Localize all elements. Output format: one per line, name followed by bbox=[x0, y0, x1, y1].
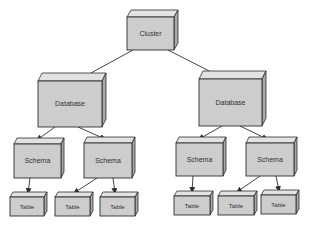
node-schema3: Schema bbox=[176, 137, 226, 176]
node-label: Database bbox=[216, 99, 246, 106]
node-db1: Database bbox=[38, 73, 106, 127]
box-top-face bbox=[176, 137, 226, 143]
node-table3: Table bbox=[100, 192, 138, 216]
node-label: Table bbox=[110, 204, 125, 210]
arrow-schema4-to-table6 bbox=[276, 176, 279, 191]
box-top-face bbox=[38, 73, 106, 81]
node-table5: Table bbox=[218, 191, 257, 215]
node-label: Schema bbox=[25, 157, 51, 164]
box-side-face bbox=[296, 190, 299, 214]
box-side-face bbox=[102, 73, 106, 127]
box-top-face bbox=[261, 190, 299, 195]
node-cluster: Cluster bbox=[127, 10, 178, 50]
node-label: Table bbox=[20, 204, 35, 210]
node-label: Table bbox=[271, 202, 286, 208]
box-top-face bbox=[10, 192, 47, 197]
node-label: Cluster bbox=[139, 30, 162, 37]
node-label: Database bbox=[55, 100, 85, 107]
node-schema4: Schema bbox=[246, 137, 297, 176]
box-top-face bbox=[84, 137, 135, 143]
node-table2: Table bbox=[55, 192, 93, 216]
box-side-face bbox=[294, 137, 297, 176]
node-db2: Database bbox=[199, 71, 266, 126]
node-schema1: Schema bbox=[14, 138, 64, 178]
box-top-face bbox=[127, 10, 178, 17]
node-table1: Table bbox=[10, 192, 47, 216]
node-table6: Table bbox=[261, 190, 299, 214]
node-label: Table bbox=[185, 203, 200, 209]
box-top-face bbox=[174, 191, 213, 196]
box-top-face bbox=[100, 192, 138, 197]
node-label: Schema bbox=[187, 156, 213, 163]
hierarchy-diagram: ClusterDatabaseDatabaseSchemaSchemaSchem… bbox=[0, 0, 309, 227]
box-side-face bbox=[262, 71, 266, 126]
arrow-schema2-to-table3 bbox=[113, 178, 115, 193]
node-label: Table bbox=[65, 204, 80, 210]
node-table4: Table bbox=[174, 191, 213, 215]
box-side-face bbox=[174, 10, 178, 50]
box-top-face bbox=[55, 192, 93, 197]
node-label: Schema bbox=[257, 156, 283, 163]
nodes-layer: ClusterDatabaseDatabaseSchemaSchemaSchem… bbox=[10, 10, 299, 216]
arrow-schema1-to-table1 bbox=[28, 178, 30, 193]
node-label: Table bbox=[229, 203, 244, 209]
arrow-schema4-to-table5 bbox=[237, 176, 260, 192]
node-schema2: Schema bbox=[84, 137, 135, 178]
arrow-schema3-to-table4 bbox=[192, 176, 193, 192]
node-label: Schema bbox=[95, 157, 121, 164]
box-top-face bbox=[14, 138, 64, 144]
arrow-schema2-to-table2 bbox=[74, 178, 97, 193]
box-top-face bbox=[246, 137, 297, 143]
box-top-face bbox=[199, 71, 266, 79]
box-top-face bbox=[218, 191, 257, 196]
